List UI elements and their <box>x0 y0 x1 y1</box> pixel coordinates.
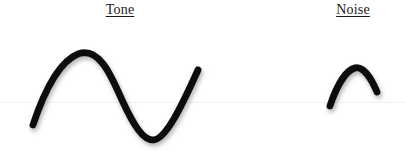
waveform-figure: Tone Noise <box>0 0 406 151</box>
waveform-canvas <box>0 0 406 151</box>
waveform-path-tone <box>33 53 198 140</box>
waveform-path-noise <box>330 68 377 106</box>
